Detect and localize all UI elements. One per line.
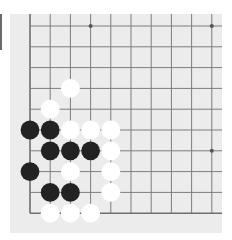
- white-stone[interactable]: [81, 121, 100, 140]
- white-stone[interactable]: [61, 121, 80, 140]
- grid-lines: [30, 14, 222, 213]
- white-stone[interactable]: [101, 121, 120, 140]
- white-stone[interactable]: [41, 204, 60, 223]
- black-stone[interactable]: [21, 121, 40, 140]
- star-point-icon: [210, 149, 214, 153]
- white-stone[interactable]: [41, 100, 60, 119]
- white-stone[interactable]: [101, 162, 120, 181]
- white-stone[interactable]: [81, 204, 100, 223]
- side-edge-bar: [0, 14, 2, 50]
- star-point-icon: [210, 24, 214, 28]
- board-grid[interactable]: [10, 14, 222, 233]
- go-board[interactable]: [10, 14, 222, 233]
- white-stone[interactable]: [101, 183, 120, 202]
- black-stone[interactable]: [41, 121, 60, 140]
- white-stone[interactable]: [101, 141, 120, 160]
- white-stone[interactable]: [61, 79, 80, 98]
- black-stone[interactable]: [41, 183, 60, 202]
- white-stone[interactable]: [61, 204, 80, 223]
- star-point-icon: [89, 24, 93, 28]
- white-stone[interactable]: [61, 162, 80, 181]
- black-stone[interactable]: [21, 162, 40, 181]
- go-board-view: [0, 0, 232, 240]
- black-stone[interactable]: [61, 141, 80, 160]
- black-stone[interactable]: [81, 141, 100, 160]
- black-stone[interactable]: [41, 141, 60, 160]
- black-stone[interactable]: [61, 183, 80, 202]
